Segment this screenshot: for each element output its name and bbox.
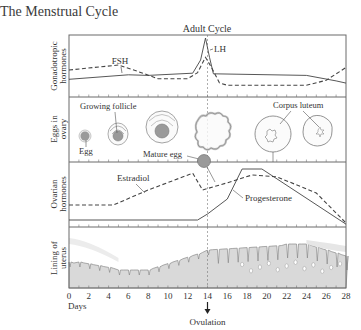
mature-egg-label: Mature egg xyxy=(143,149,183,159)
egg-stage-growing-follicle xyxy=(108,123,128,145)
panel-label-ovarian: Ovarian hormones xyxy=(49,176,68,212)
x-tick-label: 26 xyxy=(322,291,332,301)
lh-label: LH xyxy=(214,44,226,54)
mature-egg-leader xyxy=(187,156,199,159)
progesterone-label: Progesterone xyxy=(245,193,292,203)
lh-leader xyxy=(210,49,213,50)
cycle-label: Adult Cycle xyxy=(183,23,232,34)
x-axis-tick-labels: 0246810121416182022242628 xyxy=(67,291,351,301)
egg-stage-primordial xyxy=(79,130,91,142)
x-tick-label: 2 xyxy=(87,291,92,301)
x-tick-label: 16 xyxy=(223,291,233,301)
fsh-label: FSH xyxy=(112,56,129,66)
x-tick-label: 22 xyxy=(282,291,291,301)
x-tick-label: 0 xyxy=(67,291,72,301)
fsh-leader xyxy=(121,67,122,73)
egg-stage-corpus-luteum xyxy=(255,116,291,162)
growing-follicle-label: Growing follicle xyxy=(80,101,137,111)
corpus-luteum-label: Corpus luteum xyxy=(273,100,324,110)
egg-label: Egg xyxy=(79,146,93,156)
uterine-lining xyxy=(69,238,348,288)
x-tick-label: 14 xyxy=(203,291,213,301)
panel-label-uterus: Lining of uterus xyxy=(49,241,68,275)
x-tick-label: 6 xyxy=(126,291,131,301)
egg-stage-degenerating-corpus-luteum xyxy=(303,115,332,146)
panel-label-eggs: Eggs in ovary xyxy=(49,115,68,143)
menstrual-cycle-diagram: Adult Cycle Gonadotropic hormones Eggs i… xyxy=(0,0,361,330)
ovulation-arrow-icon xyxy=(205,302,211,314)
x-tick-label: 12 xyxy=(183,291,192,301)
panel-label-gonadotropic: Gonadotropic hormones xyxy=(49,41,68,91)
estradiol-label: Estradiol xyxy=(117,173,150,183)
svg-text:hormones: hormones xyxy=(58,176,68,212)
egg-stage-ruptured-follicle xyxy=(195,113,231,150)
x-tick-label: 18 xyxy=(243,291,253,301)
x-tick-label: 10 xyxy=(163,291,173,301)
ovulation-label: Ovulation xyxy=(190,317,226,327)
x-tick-label: 24 xyxy=(302,291,312,301)
svg-text:ovary: ovary xyxy=(58,118,68,139)
egg-stage-mature-follicle xyxy=(146,111,178,143)
svg-text:uterus: uterus xyxy=(58,247,68,269)
x-axis-label: Days xyxy=(68,301,87,311)
x-tick-label: 4 xyxy=(106,291,111,301)
x-tick-label: 8 xyxy=(146,291,151,301)
svg-text:hormones: hormones xyxy=(58,48,68,84)
released-egg xyxy=(198,155,211,168)
x-tick-label: 20 xyxy=(262,291,272,301)
progesterone-leader xyxy=(233,190,243,198)
egg-to-estradiol-leader xyxy=(207,167,215,182)
estradiol-leader xyxy=(136,184,145,193)
x-tick-label: 28 xyxy=(342,291,352,301)
